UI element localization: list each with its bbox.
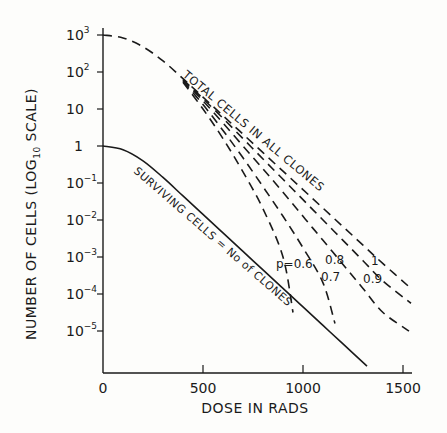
- tick-labels: 05001000150010310210110−110−210−310−410−…: [66, 25, 421, 396]
- y-tick-label: 10−1: [66, 173, 97, 191]
- label-p08: 0.8: [325, 253, 344, 267]
- x-tick-label: 1000: [285, 380, 321, 396]
- total-cells-annotation: TOTAL CELLS IN ALL CLONES: [179, 67, 327, 194]
- y-tick-label: 10−2: [66, 210, 97, 228]
- y-tick-label: 10: [66, 101, 84, 117]
- y-tick-label: 103: [66, 25, 90, 43]
- label-p06: p=0.6: [276, 257, 313, 271]
- curve-p-08: [183, 80, 409, 331]
- label-p1: 1: [371, 254, 379, 268]
- label-p07: 0.7: [321, 270, 340, 284]
- label-p09: 0.9: [363, 272, 382, 286]
- y-tick-label: 10−3: [66, 247, 97, 265]
- y-tick-label: 10−4: [66, 284, 97, 302]
- surviving-cells-annotation: SURVIVING CELLS = No of CLONES: [131, 164, 295, 309]
- x-tick-label: 500: [190, 380, 217, 396]
- y-tick-label: 1: [74, 138, 83, 154]
- axes: [97, 28, 412, 373]
- y-tick-label: 10−5: [66, 321, 97, 339]
- x-tick-label: 0: [99, 380, 108, 396]
- cell-survival-chart: 05001000150010310210110−110−210−310−410−…: [0, 0, 447, 433]
- y-axis-label: NUMBER OF CELLS (LOG10 SCALE): [23, 88, 42, 340]
- y-tick-label: 102: [66, 62, 90, 80]
- x-axis-label: DOSE IN RADS: [201, 400, 308, 416]
- curves: [103, 35, 411, 366]
- x-tick-label: 1500: [385, 380, 421, 396]
